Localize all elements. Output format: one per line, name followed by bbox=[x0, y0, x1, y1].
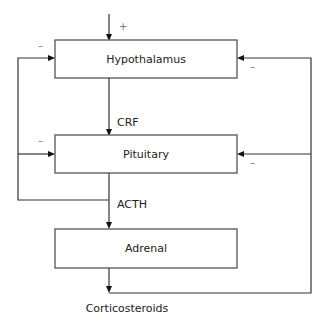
hypothalamus-right-negative-sign: – bbox=[250, 61, 255, 72]
adrenal-label: Adrenal bbox=[125, 242, 167, 255]
long-feedback-pituitary-arrow-head bbox=[237, 151, 244, 157]
acth-arrow-head bbox=[106, 222, 112, 229]
hpa-axis-diagram: + Hypothalamus CRF Pituitary ACTH Adrena… bbox=[0, 0, 327, 327]
acth-label: ACTH bbox=[117, 198, 147, 211]
corticosteroids-label: Corticosteroids bbox=[86, 302, 169, 315]
hypothalamus-label: Hypothalamus bbox=[106, 53, 186, 66]
pituitary-right-negative-sign: – bbox=[250, 157, 255, 168]
pituitary-left-negative-sign: – bbox=[38, 135, 43, 146]
crf-label: CRF bbox=[117, 116, 139, 129]
long-feedback-hypothalamus-arrow-head bbox=[237, 55, 244, 61]
corticosteroids-arrow-head bbox=[106, 286, 112, 293]
pituitary-label: Pituitary bbox=[123, 148, 169, 161]
short-feedback-pituitary-arrow-head bbox=[48, 151, 55, 157]
short-feedback-line bbox=[18, 58, 109, 200]
input-positive-sign: + bbox=[119, 21, 127, 32]
short-feedback-hypothalamus-arrow-head bbox=[48, 55, 55, 61]
hypothalamus-left-negative-sign: – bbox=[38, 40, 43, 51]
